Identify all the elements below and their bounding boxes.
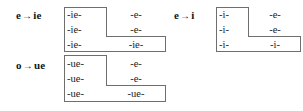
stem-change-figure: e→ie -ie- -e- -ie- -e- -ie- -ie- o→ue -u…	[0, 0, 303, 111]
cell-r2c1: -ue-	[67, 73, 105, 84]
group-e-to-i: e→i -i- -e- -i- -e- -i- -i-	[168, 0, 303, 50]
rule-to: ue	[34, 59, 45, 71]
cell-r1c1: -ue-	[67, 58, 105, 69]
cell-r1c1: -i-	[219, 9, 248, 20]
cell-r3c1: -i-	[219, 39, 248, 50]
rule-from: o	[16, 59, 22, 71]
cell-r2c1: -i-	[219, 24, 248, 35]
cell-r3c2: -i-	[252, 39, 298, 50]
arrow-icon: →	[22, 60, 34, 71]
cell-r1c1: -ie-	[67, 9, 105, 20]
rule-label-o-to-ue: o→ue	[16, 59, 45, 71]
group-o-to-ue: o→ue -ue- -e- -ue- -e- -ue- -ue-	[0, 50, 170, 105]
arrow-icon: →	[21, 10, 33, 21]
boot-box-e-to-i: -i- -e- -i- -e- -i- -i-	[216, 7, 301, 52]
group-e-to-ie: e→ie -ie- -e- -ie- -e- -ie- -ie-	[0, 0, 170, 50]
cell-r1c2: -e-	[252, 9, 298, 20]
cell-r3c2: -ie-	[108, 39, 164, 50]
rule-to: ie	[33, 9, 41, 21]
arrow-icon: →	[179, 10, 191, 21]
cell-r3c1: -ue-	[67, 88, 105, 99]
rule-label-e-to-ie: e→ie	[16, 9, 42, 21]
cell-r2c1: -ie-	[67, 24, 105, 35]
boot-box-o-to-ue: -ue- -e- -ue- -e- -ue- -ue-	[64, 55, 166, 102]
rule-to: i	[191, 9, 194, 21]
cell-r3c1: -ie-	[67, 39, 105, 50]
cell-r2c2: -e-	[108, 73, 164, 84]
cell-r3c2: -ue-	[108, 88, 164, 99]
cell-r2c2: -e-	[252, 24, 298, 35]
cell-r2c2: -e-	[108, 24, 164, 35]
cell-r1c2: -e-	[108, 58, 164, 69]
rule-label-e-to-i: e→i	[174, 9, 195, 21]
cell-r1c2: -e-	[108, 9, 164, 20]
boot-box-e-to-ie: -ie- -e- -ie- -e- -ie- -ie-	[64, 7, 166, 52]
